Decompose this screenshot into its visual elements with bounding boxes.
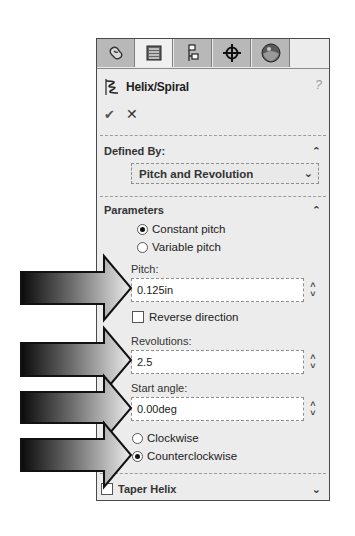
- arrow-icon-revolutions: [21, 328, 131, 392]
- arrow-icon-counterclockwise: [21, 423, 131, 487]
- callout-arrows: [0, 0, 355, 536]
- arrow-icon-pitch: [21, 256, 131, 320]
- arrow-icon-start-angle: [21, 376, 131, 440]
